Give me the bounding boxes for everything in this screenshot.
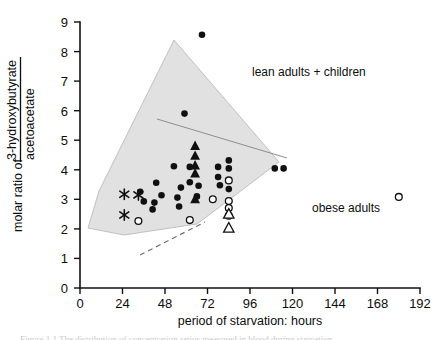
data-point [209, 196, 216, 203]
y-tick-label: 5 [61, 133, 68, 148]
x-axis-title: period of starvation: hours [178, 314, 323, 328]
data-point [217, 182, 224, 189]
data-point [195, 183, 202, 190]
obese-adults-label: obese adults [312, 201, 380, 215]
figure-caption: Figure 1.1 The distribution of concentra… [20, 331, 420, 340]
lean-adults-children-label: lean adults + children [252, 65, 366, 79]
data-point [224, 209, 234, 219]
x-tick-label: 168 [367, 296, 389, 311]
y-axis-title-denominator: acetoacetate [23, 88, 37, 160]
y-tick-label: 2 [61, 222, 68, 237]
data-point [215, 174, 222, 181]
y-axis-ticks [74, 22, 80, 288]
x-tick-label: 48 [158, 296, 172, 311]
x-tick-label: 144 [324, 296, 346, 311]
data-point [395, 194, 402, 201]
data-point [187, 179, 194, 186]
data-point [215, 164, 222, 171]
starvation-ketone-ratio-chart: 9 8 7 6 5 4 3 2 1 0 0 24 48 72 96 120 14… [0, 0, 443, 340]
data-point [226, 186, 233, 193]
x-tick-label: 120 [282, 296, 304, 311]
y-tick-label: 1 [61, 251, 68, 266]
data-point [151, 199, 158, 206]
data-point [171, 163, 178, 170]
y-tick-label: 3 [61, 192, 68, 207]
data-point [153, 180, 160, 187]
figure-root: 9 8 7 6 5 4 3 2 1 0 0 24 48 72 96 120 14… [0, 0, 443, 340]
data-point [158, 192, 165, 199]
data-point [186, 217, 193, 224]
data-point [225, 177, 232, 184]
y-tick-label: 7 [61, 74, 68, 89]
y-axis-title-prefix: molar ratio of [11, 159, 25, 232]
data-point [199, 32, 206, 39]
data-point [280, 165, 287, 172]
y-tick-label: 0 [61, 281, 68, 296]
data-point [225, 198, 232, 205]
y-tick-label: 6 [61, 104, 68, 119]
data-point [181, 110, 188, 117]
x-tick-label: 24 [115, 296, 129, 311]
y-axis-title-numerator: 3-hydroxybutyrate [5, 60, 19, 160]
y-tick-label: 4 [61, 163, 68, 178]
x-tick-label: 96 [243, 296, 257, 311]
data-point [226, 165, 233, 172]
y-tick-label: 9 [61, 15, 68, 30]
lean-adults-envelope-region [88, 40, 279, 235]
data-point [178, 184, 185, 191]
x-tick-label: 192 [409, 296, 431, 311]
y-axis-title: molar ratio of 3-hydroxybutyrate acetoac… [5, 57, 37, 232]
x-tick-label: 72 [200, 296, 214, 311]
data-point [141, 198, 148, 205]
y-tick-label: 8 [61, 45, 68, 60]
data-point [272, 165, 279, 172]
data-point [174, 194, 181, 201]
data-point [135, 218, 142, 225]
x-axis-ticks [80, 288, 420, 294]
data-point [176, 203, 183, 210]
data-point [224, 223, 234, 233]
x-tick-label: 0 [76, 296, 83, 311]
data-point [226, 157, 233, 164]
series-obese-open-triangle [224, 209, 234, 233]
data-point [149, 206, 156, 213]
